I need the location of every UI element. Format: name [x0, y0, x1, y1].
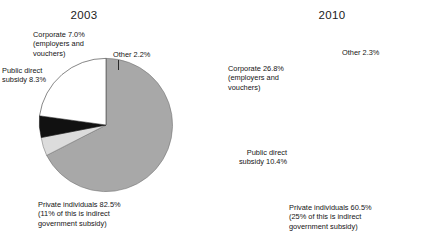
- slice-label-private-2010: Private individuals 60.5% (25% of this i…: [289, 203, 409, 231]
- slice-label-corporate-2003: Corporate 7.0% (employers and vouchers): [33, 30, 109, 58]
- slice-label-private-2003: Private individuals 82.5% (11% of this i…: [38, 200, 156, 228]
- leader-line-other-2003: [118, 60, 119, 70]
- slice-label-corporate-2010: Corporate 26.8% (employers and vouchers): [228, 64, 304, 92]
- slice-label-other-2010: Other 2.3%: [342, 48, 404, 57]
- chart-title-2010: 2010: [224, 9, 431, 21]
- slice-label-public-subsidy-2003: Public direct subsidy 8.3%: [2, 66, 64, 85]
- chart-title-2003: 2003: [0, 9, 192, 21]
- slice-label-public-subsidy-2010: Public direct subsidy 10.4%: [225, 148, 287, 167]
- pie-chart-figure: 2003 2010: [0, 0, 431, 246]
- slice-label-other-2003: Other 2.2%: [113, 50, 173, 59]
